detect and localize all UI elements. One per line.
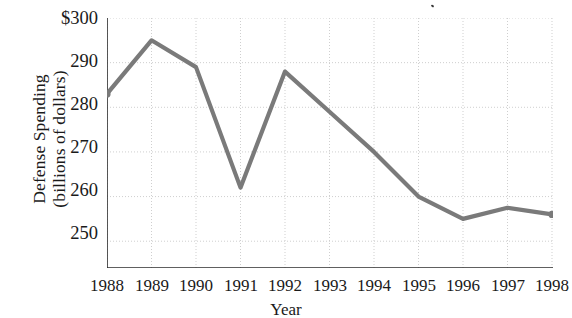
y-tick-label-290: 290 <box>28 52 98 70</box>
plot-svg <box>107 18 553 268</box>
y-tick-label-280: 280 <box>28 95 98 113</box>
y-tick-label-270: 270 <box>28 138 98 156</box>
plot-area <box>107 18 553 268</box>
x-axis-title: Year <box>0 300 572 318</box>
scan-artifact-speck <box>431 4 435 7</box>
y-tick-label-250: 250 <box>28 224 98 242</box>
y-tick-label-300: $300 <box>28 9 98 27</box>
y-tick-label-260: 260 <box>28 181 98 199</box>
defense-spending-line-chart: Defense Spending (billions of dollars) $… <box>0 0 572 318</box>
x-tick-label-1998: 1998 <box>522 277 572 294</box>
